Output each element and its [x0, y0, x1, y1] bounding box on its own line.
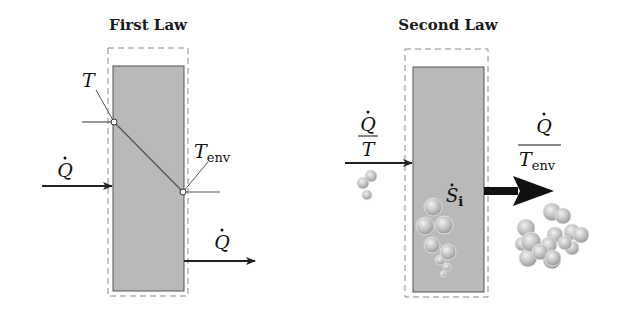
entropy-in-dot: [367, 111, 370, 114]
t-label: T: [82, 69, 96, 91]
inside-temperature-point: [111, 119, 117, 125]
entropy-out-particles: [515, 203, 589, 269]
t-label-leader: [96, 90, 114, 122]
second-law-panel: Second Law Q T Q Tenv Si: [345, 16, 589, 297]
second-law-title: Second Law: [398, 16, 498, 34]
entropy-out-arrow: [484, 176, 554, 206]
heat-out-dot: [221, 229, 224, 232]
heat-out-label: Q: [214, 231, 230, 253]
first-law-panel: First Law T Tenv Q Q: [42, 16, 255, 296]
env-temperature-point: [180, 189, 186, 195]
tenv-label: Tenv: [194, 140, 231, 165]
thermodynamics-laws-diagram: First Law T Tenv Q Q Second Law Q T: [0, 0, 621, 318]
heat-in-label: Q: [57, 159, 73, 181]
entropy-out-denominator: Tenv: [519, 148, 556, 173]
entropy-generation-dot: [451, 184, 454, 187]
tenv-label-leader: [183, 162, 208, 192]
heat-in-dot: [64, 157, 67, 160]
system-wall: [113, 66, 184, 291]
first-law-title: First Law: [109, 16, 188, 34]
entropy-in-numerator: Q: [360, 113, 376, 135]
entropy-in-denominator: T: [362, 138, 376, 160]
entropy-out-dot: [543, 113, 546, 116]
entropy-in-particles: [357, 170, 377, 200]
entropy-out-numerator: Q: [536, 115, 552, 137]
